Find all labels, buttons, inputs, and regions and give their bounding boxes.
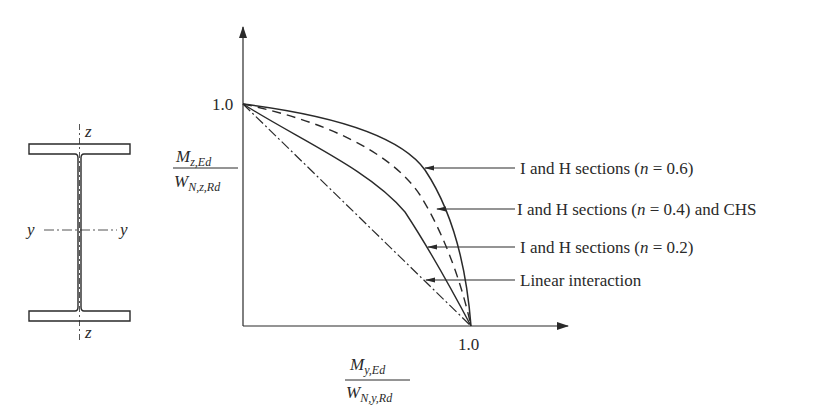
legend-label-n-0.2: I and H sections (n = 0.2) (520, 238, 693, 257)
x-axis-label: My,Ed WN,y,Rd (345, 355, 410, 405)
curve-linear-interaction (243, 104, 471, 326)
svg-text:WN,y,Rd: WN,y,Rd (346, 383, 393, 405)
z-top-label: z (84, 122, 92, 141)
y-left-label: y (25, 220, 35, 239)
legend-label-n-0.4-chs: I and H sections (n = 0.4) and CHS (517, 200, 757, 219)
interaction-diagram: z z y y 1.0 1.0 Mz,Ed WN,z,Rd My,Ed WN,y… (0, 0, 839, 411)
legend-label-n-0.6: I and H sections (n = 0.6) (520, 159, 693, 178)
legend-label-linear: Linear interaction (520, 271, 642, 290)
y-right-label: y (118, 220, 128, 239)
z-bottom-label: z (84, 323, 92, 342)
svg-text:Mz,Ed: Mz,Ed (175, 147, 212, 169)
x-tick-label: 1.0 (458, 335, 479, 354)
svg-text:WN,z,Rd: WN,z,Rd (174, 172, 221, 194)
svg-text:My,Ed: My,Ed (349, 355, 386, 377)
y-tick-label: 1.0 (212, 95, 233, 114)
y-axis-label: Mz,Ed WN,z,Rd (173, 147, 238, 194)
i-section-drawing (29, 124, 130, 343)
